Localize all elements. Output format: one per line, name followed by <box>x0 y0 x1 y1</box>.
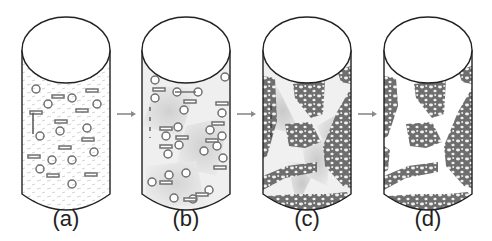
panel-d <box>384 17 472 220</box>
panel-label-d: (d) <box>415 206 442 231</box>
process-diagram: (a) (b) (c) (d) <box>0 0 492 241</box>
panel-c <box>263 17 351 220</box>
panel-label-b: (b) <box>173 206 200 231</box>
arrow-a-to-b <box>117 111 136 117</box>
panel-a <box>22 17 110 220</box>
panel-label-a: (a) <box>53 206 80 231</box>
panel-label-c: (c) <box>294 206 320 231</box>
arrow-b-to-c <box>237 111 256 117</box>
panel-b <box>142 17 230 220</box>
arrow-c-to-d <box>358 111 377 117</box>
